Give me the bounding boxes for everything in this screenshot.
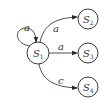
edge-label-s1-s4: c	[58, 75, 64, 86]
node-s2: S2	[78, 9, 98, 29]
edge-label-s1-s1: a	[24, 22, 30, 33]
node-s1: S1	[27, 42, 49, 64]
state-diagram: a a a c S1 S2 S3 S4	[0, 0, 108, 106]
node-s2-sub: 2	[90, 19, 94, 26]
edge-label-s1-s3: a	[58, 41, 64, 52]
node-s1-sub: 1	[40, 53, 44, 60]
edge-label-s1-s2: a	[53, 23, 59, 34]
node-s3: S3	[78, 43, 98, 63]
node-s4: S4	[78, 77, 98, 97]
node-s3-sub: 3	[90, 53, 94, 60]
node-s4-sub: 4	[90, 87, 94, 94]
